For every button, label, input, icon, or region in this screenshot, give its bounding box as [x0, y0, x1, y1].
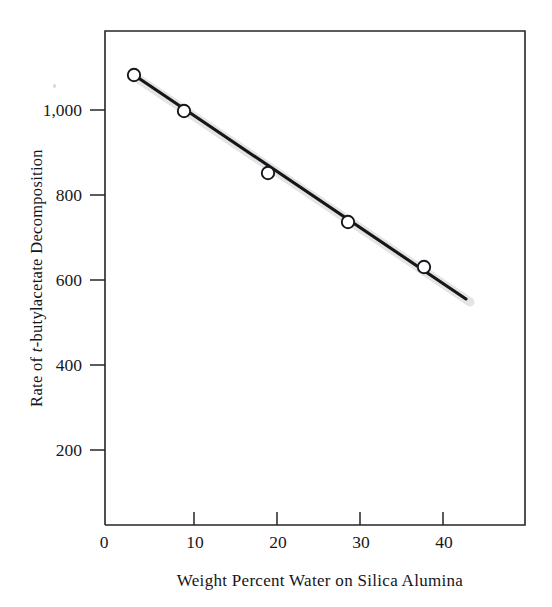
x-axis-title: Weight Percent Water on Silica Alumina: [177, 571, 464, 590]
x-tick-label-30: 30: [352, 532, 370, 552]
x-tick-label-20: 20: [269, 532, 287, 552]
y-tick-label-600: 600: [56, 270, 83, 290]
chart-figure: 1,000 800 600 400 200 0 10 20 30 40: [0, 0, 552, 607]
y-axis-title: Rate of t-butylacetate Decomposition: [27, 149, 46, 407]
data-point: [128, 69, 140, 81]
plot-frame: [105, 31, 525, 525]
scatter-chart: 1,000 800 600 400 200 0 10 20 30 40: [0, 0, 552, 607]
y-tick-label-1000: 1,000: [43, 100, 83, 120]
x-tick-label-0: 0: [100, 532, 109, 552]
x-axis-tick-labels: 0 10 20 30 40: [100, 532, 453, 552]
y-axis-tick-labels: 1,000 800 600 400 200: [43, 100, 83, 460]
y-tick-label-200: 200: [56, 440, 83, 460]
data-point: [418, 261, 430, 273]
data-point: [262, 167, 274, 179]
data-point: [178, 105, 190, 117]
y-axis-title-post: -butylacetate Decomposition: [27, 149, 46, 347]
y-axis-title-pre: Rate of: [27, 352, 46, 407]
y-axis-ticks: [90, 110, 105, 450]
x-tick-label-40: 40: [435, 532, 453, 552]
x-axis-ticks: [194, 512, 443, 525]
y-tick-label-400: 400: [56, 355, 83, 375]
y-tick-label-800: 800: [56, 185, 83, 205]
data-point: [342, 216, 354, 228]
x-tick-label-10: 10: [186, 532, 204, 552]
